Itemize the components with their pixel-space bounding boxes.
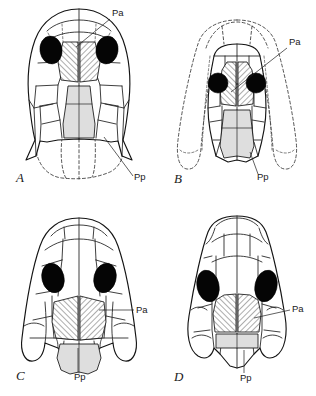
label-pp-a: Pp <box>134 171 146 182</box>
label-pa-b: Pa <box>289 36 301 47</box>
label-pa-a: Pa <box>112 7 124 18</box>
panel-letter-a: A <box>15 170 24 185</box>
panel-c: Pa Pp C <box>0 198 158 396</box>
panel-b: Pa Pp B <box>158 0 316 198</box>
label-pp-c: Pp <box>74 371 86 382</box>
label-pp-b: Pp <box>257 171 269 182</box>
orbit-right-b <box>246 73 266 93</box>
panel-letter-d: D <box>173 369 184 384</box>
skull-roof-figure: Pa Pp A <box>0 0 316 396</box>
panel-d: Pa Pp D <box>158 198 316 396</box>
panel-a: Pa Pp A <box>0 0 158 198</box>
label-pp-d: Pp <box>240 372 252 383</box>
label-pa-d: Pa <box>292 303 304 314</box>
orbit-left-b <box>208 73 228 93</box>
label-pa-c: Pa <box>136 304 148 315</box>
panel-letter-b: B <box>174 171 182 186</box>
panel-letter-c: C <box>16 368 25 383</box>
